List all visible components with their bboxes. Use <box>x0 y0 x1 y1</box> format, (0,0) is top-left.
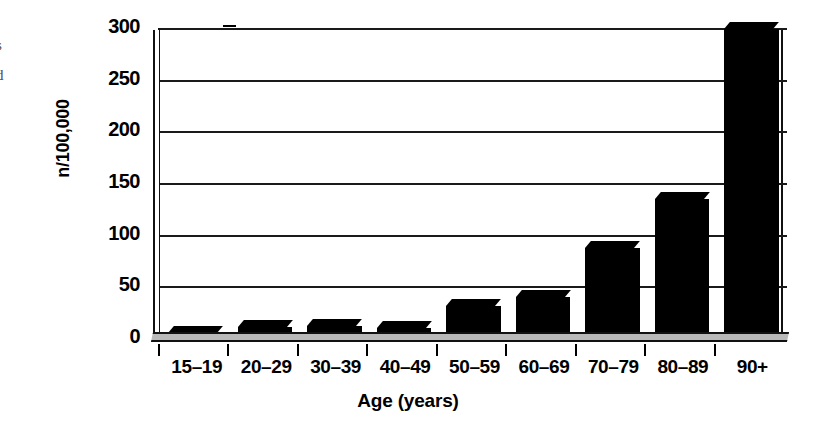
bar-top-face <box>238 320 292 327</box>
bar-side-face <box>773 29 779 336</box>
x-axis-tick-mark <box>505 344 507 356</box>
bar-top-face <box>307 319 361 326</box>
x-axis-tick-label: 30–39 <box>310 356 361 378</box>
caption-fragment: s <box>0 30 14 60</box>
bar-side-face <box>634 248 640 336</box>
bars-layer <box>158 26 786 342</box>
bar-top-face <box>516 290 570 297</box>
x-axis-title: Age (years) <box>0 390 816 412</box>
bar-top-face <box>377 321 431 328</box>
cropped-caption-fragments: s d <box>0 30 14 110</box>
x-axis-tick-mark <box>227 344 229 356</box>
bar-front-face <box>516 297 565 336</box>
bar <box>724 21 773 336</box>
x-axis-tick-labels: 15–1920–2930–3940–4950–5960–6970–7980–89… <box>110 356 810 384</box>
bar-top-face <box>655 192 709 199</box>
x-axis-tick-mark <box>575 344 577 356</box>
x-axis-tick-label: 90+ <box>737 356 768 378</box>
x-axis-tick-mark <box>714 344 716 356</box>
x-axis-tick-label: 70–79 <box>588 356 639 378</box>
x-axis-tick-label: 20–29 <box>241 356 292 378</box>
x-axis-tick-label: 60–69 <box>519 356 570 378</box>
x-axis-tick-mark <box>158 344 160 356</box>
bar <box>655 191 704 336</box>
x-axis-tick-mark <box>644 344 646 356</box>
bar-top-face <box>585 241 639 248</box>
bar-front-face <box>724 29 773 336</box>
bar <box>585 240 634 336</box>
y-axis-title: n/100,000 <box>53 64 74 214</box>
bar-front-face <box>585 248 634 336</box>
x-axis-tick-label: 15–19 <box>171 356 222 378</box>
x-axis-tick-mark <box>436 344 438 356</box>
bar-front-face <box>655 199 704 336</box>
y-axis-tick-label: 300 <box>78 15 140 38</box>
caption-fragment: d <box>0 60 14 90</box>
bar <box>446 298 495 336</box>
y-axis-tick-label: 50 <box>78 273 140 296</box>
y-axis-tick-label: 200 <box>78 118 140 141</box>
bar-side-face <box>564 297 570 336</box>
plot-floor <box>151 332 789 342</box>
plot-area <box>158 26 786 342</box>
x-axis-tick-label: 80–89 <box>657 356 708 378</box>
y-axis-tick-label: 150 <box>78 170 140 193</box>
x-axis-tick-mark <box>297 344 299 356</box>
bar-top-face <box>446 299 500 306</box>
bar-top-face <box>724 22 778 29</box>
bar <box>516 289 565 336</box>
y-axis-tick-label: 100 <box>78 221 140 244</box>
bar-side-face <box>703 199 709 336</box>
x-axis-tick-label: 40–49 <box>380 356 431 378</box>
x-axis-tick-mark <box>366 344 368 356</box>
x-axis-tick-label: 50–59 <box>449 356 500 378</box>
y-axis-tick-label: 0 <box>78 325 140 348</box>
y-axis-tick-label: 250 <box>78 66 140 89</box>
